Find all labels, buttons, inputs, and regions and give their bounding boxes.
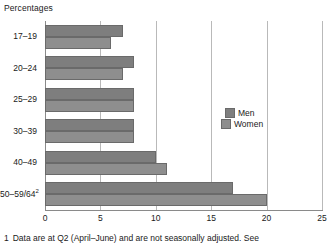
bar-men-2 [45,88,134,100]
footnote: 1Data are at Q2 (April–June) and are not… [4,233,259,243]
bar-men-3 [45,119,134,131]
plot-area [45,21,322,210]
bar-women-2 [45,100,134,112]
bar-women-4 [45,163,167,175]
category-label-3: 30–39 [0,126,41,136]
category-label-2: 25–29 [0,94,41,104]
chart-figure: Percentages 17–1920–2425–2930–3940–4950–… [0,0,327,247]
category-label-4: 40–49 [0,157,41,167]
footnote-marker: 1 [4,233,9,243]
x-axis-tick-labels: 0510152025 [45,213,322,227]
bar-men-0 [45,25,123,37]
bar-men-4 [45,151,156,163]
x-axis-line [45,210,323,211]
x-tick-label-25: 25 [317,213,326,223]
x-tick-label-10: 10 [151,213,160,223]
bar-women-3 [45,131,134,143]
gridline-20 [267,21,268,210]
legend-label-men: Men [238,108,255,118]
legend-swatch-men-icon [225,108,235,118]
units-label: Percentages [4,3,53,13]
category-axis-labels: 17–1920–2425–2930–3940–4950–59/642 [0,21,41,210]
category-label-5: 50–59/642 [0,189,41,199]
bar-men-1 [45,56,134,68]
bar-women-5 [45,194,267,206]
x-tick-label-20: 20 [262,213,271,223]
category-label-1: 20–24 [0,63,41,73]
x-tick-label-0: 0 [43,213,48,223]
bar-women-1 [45,68,123,80]
x-tick-label-15: 15 [206,213,215,223]
bar-men-5 [45,182,233,194]
legend-label-women: Women [234,119,263,129]
legend-swatch-women-icon [221,119,231,129]
x-tick-label-5: 5 [98,213,103,223]
bar-women-0 [45,37,111,49]
gridline-25 [322,21,323,210]
legend-item-women: Women [221,119,263,129]
category-label-0: 17–19 [0,31,41,41]
legend-item-men: Men [225,108,255,118]
footnote-text: Data are at Q2 (April–June) and are not … [13,233,259,243]
